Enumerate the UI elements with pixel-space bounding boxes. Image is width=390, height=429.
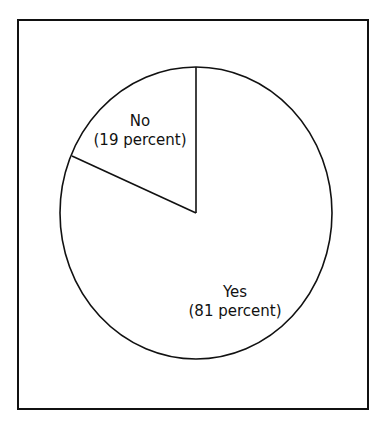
pie-chart: [0, 0, 390, 429]
no-category: No: [85, 112, 195, 131]
no-percent: (19 percent): [85, 131, 195, 150]
slice-label-yes: Yes (81 percent): [175, 283, 295, 321]
yes-category: Yes: [175, 283, 295, 302]
yes-percent: (81 percent): [175, 302, 295, 321]
slice-label-no: No (19 percent): [85, 112, 195, 150]
